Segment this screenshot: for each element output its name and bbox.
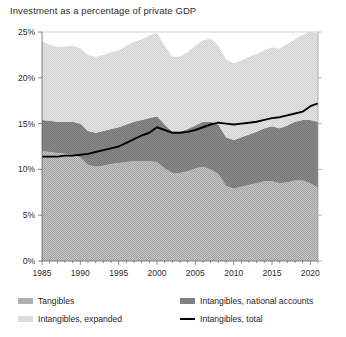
legend-item: Tangibles — [18, 296, 180, 306]
x-tick-label: 2010 — [224, 268, 243, 278]
y-axis-labels: 0%5%10%15%20%25% — [18, 27, 35, 266]
intangibles-national-accounts-swatch — [180, 298, 195, 304]
x-tick-label: 2005 — [186, 268, 205, 278]
area-bands — [42, 32, 318, 261]
stacked-area-chart: 0%5%10%15%20%25% 19851990199520002005201… — [0, 0, 346, 290]
legend-label: Tangibles — [38, 296, 74, 306]
y-tick-label: 10% — [18, 164, 35, 174]
legend-label: Intangibles, expanded — [38, 314, 122, 324]
x-tick-label: 2000 — [148, 268, 167, 278]
x-tick-label: 2020 — [301, 268, 320, 278]
chart-screenshot: Investment as a percentage of private GD… — [0, 0, 346, 337]
y-tick-label: 20% — [18, 73, 35, 83]
tangibles-swatch — [18, 298, 33, 304]
y-tick-label: 5% — [23, 210, 36, 220]
legend-label: Intangibles, national accounts — [200, 296, 313, 306]
y-tick-label: 25% — [18, 27, 35, 37]
legend-item: Intangibles, total — [180, 314, 346, 324]
y-tick-label: 0% — [23, 256, 36, 266]
chart-plot-area: 0%5%10%15%20%25% 19851990199520002005201… — [0, 0, 346, 290]
intangibles-total-swatch — [180, 318, 195, 320]
legend-label: Intangibles, total — [200, 314, 263, 324]
x-tick-label: 1995 — [109, 268, 128, 278]
y-tick-label: 15% — [18, 119, 35, 129]
legend-item: Intangibles, national accounts — [180, 296, 346, 306]
x-tick-label: 2015 — [263, 268, 282, 278]
intangibles-expanded-swatch — [18, 316, 33, 322]
x-tick-label: 1990 — [71, 268, 90, 278]
legend-item: Intangibles, expanded — [18, 314, 180, 324]
chart-legend: TangiblesIntangibles, national accountsI… — [18, 292, 338, 332]
x-tick-label: 1985 — [33, 268, 52, 278]
area-intangibles-expanded — [42, 32, 318, 140]
x-axis-labels: 19851990199520002005201020152020 — [33, 268, 321, 278]
